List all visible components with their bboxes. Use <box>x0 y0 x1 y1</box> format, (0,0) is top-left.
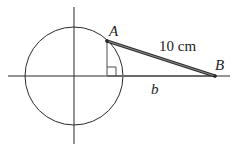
point-b-dot <box>213 74 217 78</box>
right-angle-mark <box>107 67 116 76</box>
label-point-b: B <box>215 57 224 73</box>
circle-diagram: A B 10 cm b <box>0 0 241 151</box>
label-segment-ab: 10 cm <box>159 38 196 54</box>
label-segment-b: b <box>151 81 159 97</box>
point-a-dot <box>105 39 109 43</box>
label-point-a: A <box>108 23 119 39</box>
